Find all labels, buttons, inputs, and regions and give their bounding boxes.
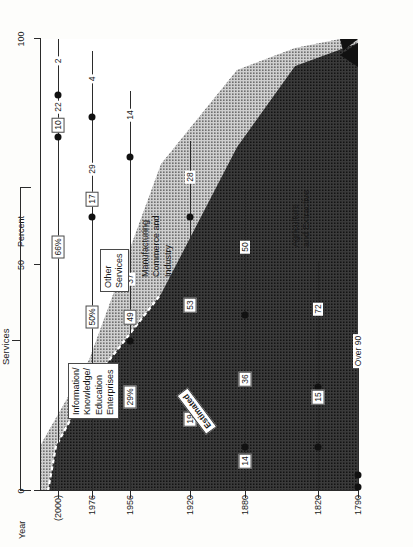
year-label-1976: 1976 [87,495,97,527]
percent-tick-0 [34,490,41,491]
dot-1880-services [242,312,249,319]
band-label-manufacturing-l1: Manufacturing [140,215,151,277]
band-label-other-services-l2: Services [114,253,125,288]
band-label-other-services-l1: Other [103,253,114,288]
percent-axis-line [40,39,41,491]
value-other-services-1976: 17 [86,191,99,206]
value-other-services-2000: 10 [52,117,65,132]
year-axis-title: Year [17,521,27,539]
year-axis-line [40,490,358,491]
year-label-1920: 1920 [185,495,195,527]
value-other-services-1920: 53 [184,297,197,312]
band-label-information-l3: Education [94,367,105,415]
band-label-agriculture-l2: and Extractive [301,190,312,247]
band-label-agriculture: Agriculture and Extractive [290,190,313,247]
value-agriculture-1920: 28 [185,170,195,183]
year-label-1956: 1956 [125,495,135,527]
dot-1956-services [127,154,134,161]
services-bracket-label: Services [0,329,11,365]
dot-2000-info [55,134,62,141]
band-label-other-services: Other Services [100,249,129,292]
band-label-information-l2: Knowledge/ [82,367,93,415]
value-other-services-1956: 49 [124,309,137,324]
band-label-information-l4: Enterprises [105,367,116,415]
dot-2000-services [55,92,62,99]
dot-1976-services [89,114,96,121]
percent-tick-100 [34,38,41,39]
percent-label-100: 100 [16,31,26,46]
value-agriculture-1790: Over 90 [353,334,363,368]
band-label-information-l1: Information/ [71,367,82,415]
dot-1790-a [355,484,362,491]
year-label-1820: 1820 [313,495,323,527]
dot-1976-info [89,214,96,221]
dot-1790-b [355,472,362,479]
value-agriculture-2000: 2 [53,57,63,66]
row-line-1920 [190,141,191,491]
band-label-manufacturing: Manufacturing Commerce and Industry [140,215,174,277]
band-label-agriculture-l1: Agriculture [290,190,301,247]
band-label-manufacturing-l2: Commerce and [151,215,162,277]
services-bracket [20,187,31,491]
value-information-1956: 29% [124,385,137,408]
year-label-1880: 1880 [240,495,250,527]
percent-tick-50 [34,264,41,265]
value-agriculture-1820: 72 [313,302,323,315]
value-information-2000: 66% [52,235,65,258]
year-label-2000: (2000) [53,495,63,527]
services-bracket-tick [12,340,21,341]
rotated-chart-canvas: 0 50 100 Percent 1790 1820 1880 1920 195… [0,0,413,547]
value-agriculture-1880: 50 [240,240,250,253]
value-manufacturing-1976: 29 [87,162,97,175]
chart-figure: 0 50 100 Percent 1790 1820 1880 1920 195… [0,0,413,547]
band-label-information: Information/ Knowledge/ Education Enterp… [68,363,119,419]
dot-1820-services [315,444,322,451]
value-other-services-1880: 36 [239,371,252,386]
value-agriculture-1956: 14 [125,108,135,121]
value-information-1880: 14 [239,453,252,468]
band-label-manufacturing-l3: Industry [163,215,174,277]
value-information-1976: 50% [86,305,99,328]
row-line-1790 [358,351,359,491]
row-line-1820 [318,261,319,491]
dot-1920-services [187,214,194,221]
value-other-services-1820: 15 [312,389,325,404]
value-manufacturing-2000: 22 [53,100,63,113]
dot-1880-info [242,444,249,451]
row-line-1956 [130,91,131,491]
year-label-1790: 1790 [353,495,363,527]
dot-1956-info [127,338,134,345]
value-agriculture-1976: 4 [87,75,97,84]
